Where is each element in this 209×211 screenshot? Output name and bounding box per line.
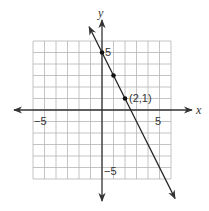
y-tick-5: 5	[105, 46, 111, 58]
data-point	[123, 96, 128, 101]
data-point	[100, 50, 105, 55]
x-tick-5: 5	[155, 115, 161, 127]
coordinate-plane: y x −5 5 5 −5 (2,1)	[0, 0, 209, 211]
x-tick-neg5: −5	[34, 115, 47, 127]
y-axis-label: y	[97, 6, 104, 20]
point-label: (2,1)	[129, 92, 152, 104]
x-axis-label: x	[195, 103, 202, 117]
data-point	[111, 73, 116, 78]
y-tick-neg5: −5	[104, 165, 117, 177]
